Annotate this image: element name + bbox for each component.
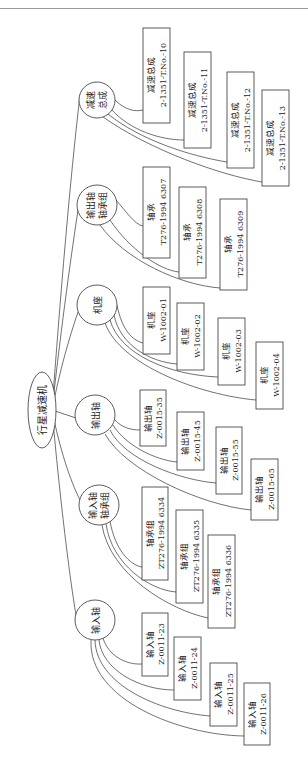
leaf-name: 输入轴: [213, 681, 223, 708]
leaf-code: 2-1351-T.No.-11: [200, 68, 209, 132]
leaf-name: 输出轴: [180, 428, 190, 455]
leaf-code: Z-0015-65: [267, 468, 276, 510]
group-label-line: 轴承组: [99, 492, 110, 519]
leaf-box: 轴承 T276-1994 6308: [179, 187, 206, 278]
leaf-name: 机座: [221, 342, 231, 360]
leaf-code: 2-1351-T.No.-13: [278, 106, 287, 170]
leaf-box: 轴承组 ZT276-1994 6334: [142, 487, 168, 580]
leaf-name: 轴承: [182, 223, 192, 241]
leaf-code: W-1002-01: [159, 298, 168, 342]
leaf-code: W-1002-02: [193, 314, 202, 358]
leaf-code: Z-0011-23: [157, 623, 166, 665]
leaf-name: 减速总成: [187, 82, 197, 118]
leaf-name: 机座: [259, 366, 269, 384]
group-node-output-shaft: 输出轴: [75, 395, 115, 435]
group-label-line: 减速: [85, 91, 96, 109]
leaf-box: 输出轴 Z-0015-65: [251, 459, 278, 520]
leaf-code: T276-1994 6308: [195, 199, 204, 266]
leaf-code: 2-1351-T.No.-10: [159, 43, 168, 107]
leaf-name: 输入轴: [177, 655, 187, 682]
leaf-code: T276-1994 6309: [236, 211, 245, 278]
leaf-box: 输入轴 Z-0011-23: [142, 613, 168, 676]
leaf-box: 轴承组 ZT276-1994 6336: [208, 535, 235, 628]
leaf-code: Z-0011-26: [259, 693, 268, 735]
leaf-name: 轴承: [223, 235, 233, 253]
leaf-box: 输出轴 Z-0015-45: [177, 412, 204, 470]
leaf-code: W-1002-04: [272, 353, 281, 397]
leaf-name: 轴承组: [145, 520, 155, 547]
group-label-line: 输出轴: [85, 192, 96, 219]
leaf-name: 输出轴: [143, 405, 153, 432]
leaf-name: 轴承: [146, 203, 156, 221]
group-node-reducer-assembly: 减速 总成: [79, 82, 115, 118]
leaf-name: 机座: [180, 327, 190, 345]
leaf-name: 机座: [146, 311, 156, 329]
group-label-line: 输入轴: [90, 607, 101, 634]
leaf-code: ZT276-1994 6334: [157, 497, 166, 569]
leaf-code: Z-0015-45: [193, 420, 202, 462]
group-node-base: 机座: [77, 285, 117, 325]
group-label-line: 机座: [92, 296, 103, 314]
leaf-code: 2-1351-T.No.-12: [243, 88, 252, 152]
leaf-box: 减速总成 2-1351-T.No.-13: [262, 90, 289, 186]
group-label-line: 输出轴: [90, 402, 101, 429]
group-node-output-shaft-bearing: 输出轴 轴承组: [77, 185, 117, 225]
leaf-box: 机座 W-1002-04: [256, 342, 283, 409]
leaf-code: ZT276-1994 6336: [224, 545, 233, 617]
leaf-name: 输出轴: [219, 447, 229, 474]
root-label: 行星减速机: [36, 385, 48, 435]
root-edges: [52, 95, 80, 615]
leaf-box: 机座 W-1002-02: [177, 303, 204, 370]
leaf-box: 机座 W-1002-01: [143, 287, 170, 354]
group-node-input-shaft: 输入轴: [75, 600, 115, 640]
leaf-name: 输出轴: [254, 476, 264, 503]
leaf-name: 轴承组: [211, 568, 221, 595]
leaf-code: T276-1994 6307: [159, 179, 168, 246]
leaf-box: 输出轴 Z-0015-55: [216, 427, 242, 494]
group-node-input-shaft-bearing: 输入轴 轴承组: [79, 485, 119, 525]
root-node: 行星减速机: [28, 372, 56, 448]
leaf-name: 输入轴: [247, 701, 257, 728]
group-label-line: 轴承组: [97, 192, 108, 219]
leaf-code: Z-0015-55: [231, 439, 240, 481]
leaf-name: 输入轴: [145, 631, 155, 658]
tree-diagram: 行星减速机 减速 总成 输出轴 轴承组 机座 输出轴 输入轴 轴承组 输入轴 减…: [0, 0, 308, 758]
leaf-name: 减速总成: [146, 57, 156, 93]
leaf-code: Z-0011-24: [190, 647, 199, 689]
leaf-box: 轴承 T276-1994 6307: [143, 167, 170, 258]
leaf-box: 输出轴 Z-0015-35: [140, 390, 166, 446]
leaf-code: Z-0015-35: [155, 397, 164, 439]
leaf-code: Z-0011-25: [226, 673, 235, 715]
leaf-code: W-1002-03: [234, 329, 243, 373]
leaf-box: 输入轴 Z-0011-25: [210, 663, 237, 726]
leaf-name: 减速总成: [230, 102, 240, 138]
leaf-name: 轴承组: [179, 543, 189, 570]
leaf-box: 机座 W-1002-03: [218, 318, 245, 385]
leaf-box: 减速总成 2-1351-T.No.-12: [227, 72, 254, 168]
leaf-box: 输入轴 Z-0011-24: [174, 637, 201, 700]
group-label-line: 输入轴: [87, 492, 98, 519]
leaf-box: 减速总成 2-1351-T.No.-11: [184, 52, 211, 148]
leaf-box: 输入轴 Z-0011-26: [244, 683, 270, 745]
leaf-code: ZT276-1994 6335: [192, 520, 201, 592]
group-label-line: 总成: [97, 91, 108, 109]
leaf-box: 减速总成 2-1351-T.No.-10: [143, 28, 170, 123]
leaf-name: 减速总成: [265, 120, 275, 156]
leaf-box: 轴承 T276-1994 6309: [220, 199, 247, 290]
leaf-box: 轴承组 ZT276-1994 6335: [176, 510, 203, 603]
